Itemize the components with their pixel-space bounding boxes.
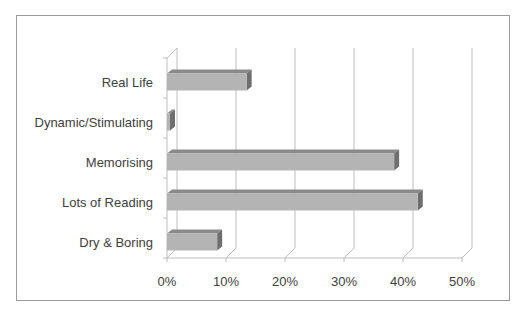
category-label: Memorising <box>86 155 153 170</box>
bar <box>167 70 252 91</box>
category-label: Dynamic/Stimulating <box>35 115 154 130</box>
bar <box>167 190 423 211</box>
bar <box>167 230 222 251</box>
category-labels: Real LifeDynamic/StimulatingMemorisingLo… <box>35 75 154 250</box>
category-label: Real Life <box>102 75 153 90</box>
x-tick-label: 10% <box>213 274 239 289</box>
floor-gridline <box>403 248 413 258</box>
bar <box>167 150 399 171</box>
x-tick-label: 40% <box>390 274 416 289</box>
bar-chart: Real LifeDynamic/StimulatingMemorisingLo… <box>0 0 526 322</box>
x-tick-label: 50% <box>449 274 475 289</box>
x-tick-label: 0% <box>158 274 177 289</box>
floor-gridline <box>285 248 295 258</box>
floor-gridline <box>344 248 354 258</box>
bar <box>167 110 175 131</box>
floor-gridline <box>462 248 472 258</box>
floor-gridline <box>226 248 236 258</box>
x-tick-label: 20% <box>272 274 298 289</box>
category-label: Lots of Reading <box>62 195 153 210</box>
x-axis-tick-labels: 0%10%20%30%40%50% <box>158 274 476 289</box>
category-label: Dry & Boring <box>79 235 153 250</box>
x-tick-label: 30% <box>331 274 357 289</box>
